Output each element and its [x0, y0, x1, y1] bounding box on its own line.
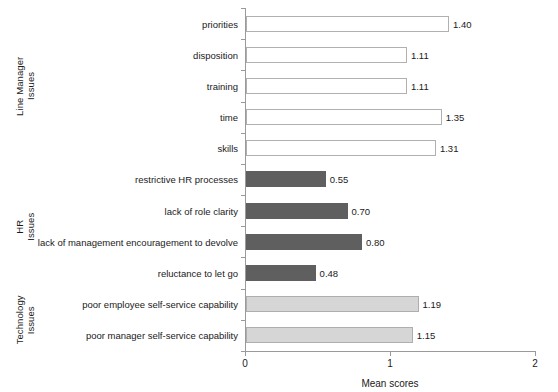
- bar-value-label: 0.80: [366, 236, 385, 247]
- x-axis-tick-label: 2: [532, 358, 538, 369]
- bar-row: lack of role clarity0.70: [245, 195, 535, 226]
- x-axis-title: Mean scores: [245, 378, 535, 389]
- group-label: HR Issues: [14, 164, 36, 289]
- category-label: poor manager self-service capability: [86, 330, 238, 341]
- bar: 0.55: [246, 171, 326, 187]
- bar-value-label: 1.11: [411, 80, 429, 91]
- y-axis-tick: [241, 8, 245, 9]
- x-axis-tick-label: 0: [242, 358, 248, 369]
- x-axis-tick: [535, 351, 536, 356]
- category-label: restrictive HR processes: [135, 174, 238, 185]
- bar: 1.11: [246, 78, 407, 94]
- bar-value-label: 1.40: [453, 18, 472, 29]
- bar: 0.48: [246, 265, 316, 281]
- bar-value-label: 1.35: [446, 112, 465, 123]
- bar-row: time1.35: [245, 102, 535, 133]
- category-label: priorities: [202, 18, 238, 29]
- bar-value-label: 0.55: [330, 174, 349, 185]
- bar-row: priorities1.40: [245, 8, 535, 39]
- bar: 1.15: [246, 327, 413, 343]
- bar: 1.11: [246, 47, 407, 63]
- horizontal-bar-chart: Line Manager IssuesHR IssuesTechnology I…: [0, 0, 558, 392]
- x-axis-tick: [245, 351, 246, 356]
- category-label: poor employee self-service capability: [82, 299, 238, 310]
- category-label: lack of management encouragement to devo…: [38, 236, 238, 247]
- bar-row: reluctance to let go0.48: [245, 257, 535, 288]
- group-label: Line Manager Issues: [14, 8, 36, 164]
- category-label: disposition: [193, 49, 238, 60]
- bar-row: training1.11: [245, 70, 535, 101]
- bar-row: poor employee self-service capability1.1…: [245, 289, 535, 320]
- bar: 1.31: [246, 140, 436, 156]
- bar-value-label: 0.70: [352, 205, 371, 216]
- plot-area: priorities1.40disposition1.11training1.1…: [245, 8, 535, 351]
- category-label: skills: [217, 143, 238, 154]
- category-label: lack of role clarity: [165, 205, 238, 216]
- bar-row: skills1.31: [245, 133, 535, 164]
- bar-row: poor manager self-service capability1.15: [245, 320, 535, 351]
- bar: 1.19: [246, 296, 419, 312]
- bar-value-label: 1.31: [440, 143, 459, 154]
- bar-value-label: 1.19: [423, 299, 442, 310]
- category-label: reluctance to let go: [158, 268, 238, 279]
- bar-row: lack of management encouragement to devo…: [245, 226, 535, 257]
- group-label: Technology Issues: [14, 289, 36, 351]
- bar: 1.35: [246, 109, 442, 125]
- category-label: time: [220, 112, 238, 123]
- bar-row: restrictive HR processes0.55: [245, 164, 535, 195]
- bar-row: disposition1.11: [245, 39, 535, 70]
- bar: 0.70: [246, 203, 348, 219]
- category-label: training: [207, 80, 238, 91]
- x-axis-tick: [390, 351, 391, 356]
- bar-value-label: 0.48: [320, 268, 339, 279]
- bar-value-label: 1.15: [417, 330, 436, 341]
- x-axis-tick-label: 1: [387, 358, 393, 369]
- bar: 0.80: [246, 234, 362, 250]
- bar: 1.40: [246, 16, 449, 32]
- bar-value-label: 1.11: [411, 49, 429, 60]
